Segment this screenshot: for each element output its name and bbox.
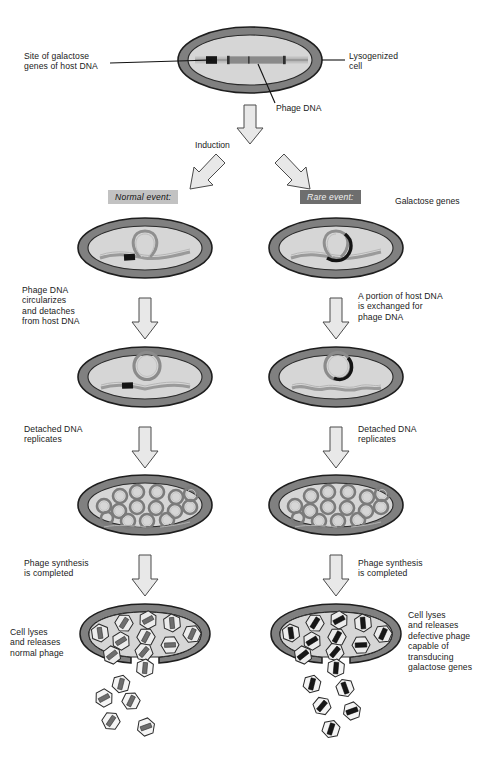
arrow-left-step-3 bbox=[132, 555, 158, 596]
induction-arrow bbox=[237, 105, 263, 144]
label-lysogenized-cell: Lysogenized cell bbox=[349, 51, 429, 72]
label-left-step-2: Detached DNA replicates bbox=[24, 424, 124, 445]
label-left-step-3: Phage synthesis is completed bbox=[24, 558, 128, 579]
normal-event-cell bbox=[78, 218, 212, 278]
badge-rare-event: Rare event: bbox=[300, 190, 361, 204]
label-phage-dna: Phage DNA bbox=[276, 103, 321, 113]
rare-event-cell bbox=[269, 218, 403, 278]
label-right-step-2: Detached DNA replicates bbox=[358, 424, 468, 445]
label-galactose-genes: Galactose genes bbox=[395, 196, 460, 206]
label-right-step-1: A portion of host DNA is exchanged for p… bbox=[358, 291, 484, 322]
arrow-left-step-1 bbox=[132, 298, 158, 339]
rare-replication-cell bbox=[269, 475, 403, 535]
label-left-step-4: Cell lyses and releases normal phage bbox=[10, 627, 90, 658]
normal-lysis-cell bbox=[80, 604, 210, 738]
arrow-right-step-1 bbox=[323, 298, 349, 339]
arrow-right-step-2 bbox=[323, 427, 349, 468]
label-site-of-galactose-genes: Site of galactose genes of host DNA bbox=[24, 51, 116, 72]
branch-arrow-left bbox=[190, 154, 225, 189]
label-right-step-4: Cell lyses and releases defective phage … bbox=[408, 610, 498, 672]
rare-detached-cell bbox=[269, 347, 403, 407]
arrow-right-step-3 bbox=[323, 555, 349, 596]
normal-replication-cell bbox=[78, 475, 212, 535]
label-left-step-1: Phage DNA circularizes and detaches from… bbox=[22, 285, 122, 327]
normal-detached-cell bbox=[78, 347, 212, 407]
badge-normal-event: Normal event: bbox=[108, 190, 178, 204]
arrow-left-step-2 bbox=[132, 427, 158, 468]
label-right-step-3: Phage synthesis is completed bbox=[358, 558, 468, 579]
transduction-diagram: Site of galactose genes of host DNA Lyso… bbox=[0, 0, 500, 771]
branch-arrow-right bbox=[275, 154, 310, 189]
defective-lysis-cell bbox=[271, 604, 401, 740]
label-induction: Induction bbox=[195, 140, 230, 150]
